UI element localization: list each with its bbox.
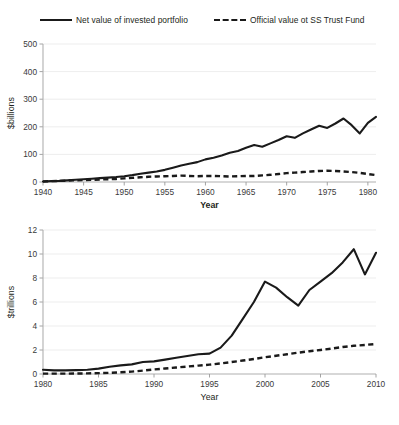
x-tick-label: 1980 — [34, 379, 53, 389]
y-tick-label: 8 — [32, 273, 37, 283]
legend-item-official-value: Official value ot SS Trust Fund — [214, 13, 365, 27]
x-axis-title: Year — [201, 392, 219, 402]
legend-label-net-value: Net value of invested portfolio — [76, 15, 188, 25]
line-chart-top: 0100200300400500194019451950195519601965… — [0, 36, 399, 216]
x-axis-title: Year — [200, 200, 219, 210]
x-tick-label: 1995 — [200, 379, 219, 389]
plot-area-bottom: 0246810121980198519901995200020052010Yea… — [0, 222, 399, 425]
y-tick-label: 2 — [32, 345, 37, 355]
chart-page: Net value of invested portfolio Official… — [0, 0, 399, 425]
x-tick-label: 1940 — [34, 187, 53, 197]
x-tick-label: 1945 — [74, 187, 93, 197]
x-tick-label: 1990 — [145, 379, 164, 389]
x-tick-label: 2005 — [311, 379, 330, 389]
x-tick-label: 2000 — [256, 379, 275, 389]
x-tick-label: 1980 — [359, 187, 378, 197]
plot-area-top: 0100200300400500194019451950195519601965… — [0, 36, 399, 216]
y-tick-label: 300 — [23, 94, 37, 104]
y-tick-label: 10 — [28, 249, 38, 259]
legend-swatch-dashed-line-icon — [214, 19, 246, 21]
y-tick-label: 6 — [32, 297, 37, 307]
y-tick-label: 0 — [32, 369, 37, 379]
chart-panel-bottom: 0246810121980198519901995200020052010Yea… — [0, 222, 399, 425]
series-line-net-value — [43, 249, 376, 370]
chart-panel-top: 0100200300400500194019451950195519601965… — [0, 36, 399, 216]
y-tick-label: 12 — [28, 225, 38, 235]
y-tick-label: 4 — [32, 321, 37, 331]
series-line-official-value — [43, 171, 376, 182]
legend-item-net-value: Net value of invested portfolio — [40, 13, 188, 27]
y-tick-label: 0 — [32, 177, 37, 187]
y-tick-label: 500 — [23, 39, 37, 49]
y-tick-label: 200 — [23, 122, 37, 132]
y-tick-label: 400 — [23, 67, 37, 77]
x-tick-label: 1950 — [115, 187, 134, 197]
x-tick-label: 1965 — [237, 187, 256, 197]
legend-label-official-value: Official value ot SS Trust Fund — [250, 15, 365, 25]
x-tick-label: 1970 — [277, 187, 296, 197]
line-chart-bottom: 0246810121980198519901995200020052010Yea… — [0, 222, 399, 425]
chart-legend: Net value of invested portfolio Official… — [0, 12, 399, 32]
y-axis-title: $billions — [6, 97, 16, 129]
x-tick-label: 1955 — [156, 187, 175, 197]
y-tick-label: 100 — [23, 149, 37, 159]
legend-swatch-solid-line-icon — [40, 19, 72, 21]
x-tick-label: 2010 — [367, 379, 386, 389]
y-axis-title: $trillions — [6, 285, 16, 318]
x-tick-label: 1985 — [89, 379, 108, 389]
x-tick-label: 1960 — [196, 187, 215, 197]
x-tick-label: 1975 — [318, 187, 337, 197]
